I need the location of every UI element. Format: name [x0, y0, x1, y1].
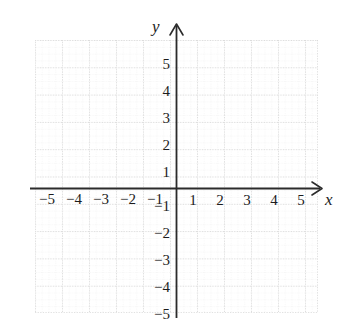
x-tick-label-3: 3 — [239, 193, 255, 208]
x-tick-label-neg2: −2 — [117, 192, 139, 207]
y-axis-label: y — [152, 18, 160, 35]
y-tick-label-1: 1 — [146, 165, 170, 180]
x-tick-label-4: 4 — [266, 193, 282, 208]
grid-area — [35, 40, 318, 313]
y-tick-label-3: 3 — [146, 111, 170, 126]
x-tick-label-neg3: −3 — [90, 192, 112, 207]
y-tick-label-4: 4 — [146, 84, 170, 99]
grid-lines — [35, 40, 318, 313]
y-tick-label-neg2: −2 — [146, 226, 170, 241]
y-tick-label-neg1: −1 — [146, 199, 170, 214]
x-tick-label-2: 2 — [212, 193, 228, 208]
x-tick-label-neg5: −5 — [36, 192, 58, 207]
y-tick-label-neg4: −4 — [146, 280, 170, 295]
x-axis-label: x — [325, 191, 333, 208]
y-axis-arrow-icon — [170, 24, 183, 35]
y-tick-label-2: 2 — [146, 138, 170, 153]
x-tick-label-neg4: −4 — [63, 192, 85, 207]
x-tick-label-1: 1 — [185, 193, 201, 208]
coordinate-plane-figure: y x −5 −4 −3 −2 −1 1 2 3 4 5 5 4 3 2 1 −… — [0, 0, 345, 333]
x-tick-label-5: 5 — [293, 193, 309, 208]
y-tick-label-5: 5 — [146, 57, 170, 72]
y-tick-label-neg5: −5 — [146, 307, 170, 322]
y-tick-label-neg3: −3 — [146, 253, 170, 268]
